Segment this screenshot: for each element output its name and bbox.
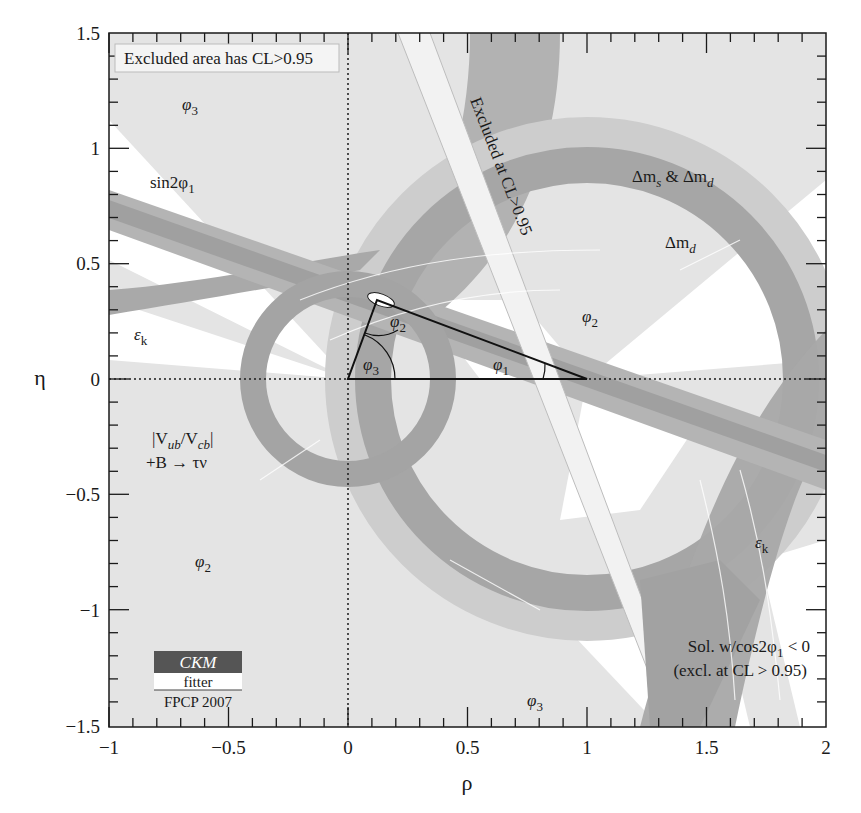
x-tick-labels: −1 −0.5 0 0.5 1 1.5 2	[99, 737, 831, 758]
excluded-area-label: Excluded area has CL>0.95	[124, 49, 313, 68]
logo-ckm-text: CKM	[180, 653, 218, 672]
logo-event-text: FPCP 2007	[164, 694, 233, 710]
y-tick-label: −1	[80, 600, 100, 621]
x-tick-label: 0.5	[456, 737, 480, 758]
ckm-rho-eta-plot: −1 −0.5 0 0.5 1 1.5 2 1.5 1 0.5 0 −0.5 −…	[0, 0, 861, 813]
cos2phi1-label-line2: (excl. at CL > 0.95)	[673, 661, 807, 680]
y-tick-label: 0.5	[76, 253, 100, 274]
x-tick-label: 1.5	[695, 737, 719, 758]
y-tick-label: 1	[91, 138, 101, 159]
ckmfitter-logo: CKM fitter FPCP 2007	[154, 651, 242, 710]
y-tick-label: −0.5	[66, 484, 100, 505]
x-tick-label: 2	[821, 737, 831, 758]
x-axis-title: ρ	[462, 770, 473, 795]
y-tick-label: −1.5	[66, 716, 100, 737]
y-tick-labels: 1.5 1 0.5 0 −0.5 −1 −1.5	[66, 23, 100, 737]
x-tick-label: 0	[343, 737, 353, 758]
vub-label-line2: +B → τν	[146, 453, 207, 472]
y-tick-label: 1.5	[76, 23, 100, 44]
x-tick-label: −0.5	[211, 737, 245, 758]
logo-fitter-text: fitter	[183, 674, 212, 690]
y-axis-title: η	[34, 365, 46, 390]
plot-area	[109, 33, 826, 727]
x-tick-label: 1	[582, 737, 592, 758]
y-tick-label: 0	[91, 369, 101, 390]
x-tick-label: −1	[99, 737, 119, 758]
